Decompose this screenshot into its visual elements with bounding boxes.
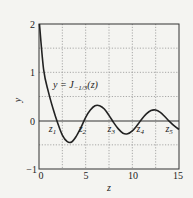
y-tick-neg1: −1 bbox=[26, 164, 37, 175]
zero-label-2: z2 bbox=[78, 123, 87, 136]
zero-labels: z1z2z3z4z5 bbox=[48, 123, 174, 136]
x-tick-10: 10 bbox=[128, 170, 138, 181]
zero-label-1: z1 bbox=[48, 123, 56, 136]
x-tick-5: 5 bbox=[84, 170, 89, 181]
zero-label-3: z3 bbox=[107, 123, 116, 136]
y-tick-2: 2 bbox=[30, 19, 35, 30]
x-tick-15: 15 bbox=[173, 170, 183, 181]
y-tick-1: 1 bbox=[30, 67, 35, 78]
x-axis-label: z bbox=[106, 182, 111, 193]
y-tick-0: 0 bbox=[30, 116, 35, 127]
grid-lines bbox=[39, 24, 179, 169]
y-axis-label: y bbox=[12, 97, 23, 103]
chart: 2 1 0 −1 0 5 10 15 z y y = J−1/3(z) z1z2… bbox=[0, 0, 193, 198]
curve-label: y = J−1/3(z) bbox=[52, 79, 99, 92]
x-tick-0: 0 bbox=[39, 170, 44, 181]
zero-label-4: z4 bbox=[136, 123, 145, 136]
